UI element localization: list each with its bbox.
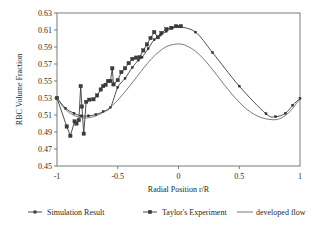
data-point-marker	[142, 49, 145, 52]
data-point-marker	[80, 115, 82, 117]
data-point-marker	[284, 112, 286, 114]
data-point-marker	[160, 31, 163, 34]
legend-label: developed flow	[256, 208, 306, 217]
x-tick-label: 1	[298, 172, 302, 181]
data-point-marker	[156, 36, 159, 39]
y-tick-label: 0.53	[38, 94, 52, 103]
data-point-marker	[292, 104, 294, 106]
data-point-marker	[99, 88, 102, 91]
data-point-marker	[69, 134, 72, 137]
data-point-marker	[75, 122, 78, 125]
y-tick-label: 0.51	[38, 111, 52, 120]
data-point-marker	[138, 56, 141, 59]
data-point-marker	[153, 39, 155, 41]
data-point-marker	[134, 56, 137, 59]
y-tick-label: 0.47	[38, 145, 52, 154]
series-developed-flow	[57, 44, 300, 120]
legend-swatch-marker	[148, 210, 151, 213]
rbc-volume-fraction-chart: 0.450.470.490.510.530.550.570.590.610.63…	[0, 0, 326, 231]
data-point-marker	[88, 115, 90, 117]
data-point-marker	[92, 98, 95, 101]
y-tick-label: 0.45	[38, 162, 52, 171]
y-tick-label: 0.49	[38, 128, 52, 137]
y-axis-title: RBC Volume Fraction	[15, 54, 24, 125]
legend-item-simulation-result[interactable]: Simulation Result	[28, 208, 105, 217]
data-point-marker	[131, 57, 134, 60]
data-point-marker	[153, 30, 156, 33]
x-axis-title: Radial Position r/R	[148, 185, 210, 194]
data-point-marker	[145, 43, 148, 46]
data-point-marker	[195, 31, 197, 33]
y-axis-tick-labels: 0.450.470.490.510.530.550.570.590.610.63	[38, 9, 52, 171]
series-simulation-result	[56, 26, 301, 118]
series-layer	[55, 24, 301, 137]
data-point-marker	[116, 78, 119, 81]
legend-item-taylor-s-experiment[interactable]: Taylor's Experiment	[143, 208, 227, 217]
chart-legend: Simulation ResultTaylor's Experimentdeve…	[28, 208, 306, 217]
data-point-marker	[88, 98, 91, 101]
data-point-marker	[127, 61, 130, 64]
data-point-marker	[123, 67, 126, 70]
y-tick-label: 0.61	[38, 26, 52, 35]
y-tick-label: 0.59	[38, 43, 52, 52]
data-point-marker	[131, 66, 133, 68]
data-point-marker	[212, 52, 214, 54]
data-point-marker	[124, 77, 126, 79]
data-point-marker	[238, 85, 240, 87]
data-point-marker	[95, 94, 98, 97]
y-tick-label: 0.55	[38, 77, 52, 86]
data-point-marker	[265, 113, 267, 115]
data-point-marker	[170, 26, 173, 29]
series-taylor-s-experiment	[55, 24, 182, 137]
data-point-marker	[275, 116, 277, 118]
data-point-marker	[79, 84, 82, 87]
plot-frame	[57, 13, 300, 166]
legend-label: Taylor's Experiment	[162, 208, 227, 217]
y-tick-label: 0.57	[38, 60, 52, 69]
chart-figure: 0.450.470.490.510.530.550.570.590.610.63…	[0, 0, 326, 231]
data-point-marker	[111, 67, 114, 70]
data-point-marker	[117, 86, 119, 88]
data-point-marker	[179, 24, 182, 27]
data-point-marker	[147, 48, 149, 50]
data-point-marker	[109, 79, 112, 82]
y-tick-label: 0.63	[38, 9, 52, 18]
x-axis-tick-labels: -1-0.500.51	[54, 172, 302, 181]
x-tick-label: -1	[54, 172, 61, 181]
legend-label: Simulation Result	[47, 208, 105, 217]
x-tick-label: 0	[177, 172, 181, 181]
legend-swatch-marker	[34, 211, 36, 213]
data-point-marker	[104, 83, 107, 86]
data-point-marker	[65, 125, 68, 128]
x-tick-label: 0.5	[234, 172, 244, 181]
data-point-marker	[73, 112, 75, 114]
data-point-marker	[80, 105, 83, 108]
x-tick-label: -0.5	[111, 172, 124, 181]
data-point-marker	[174, 24, 177, 27]
data-point-marker	[165, 27, 168, 30]
data-point-marker	[82, 132, 85, 135]
data-point-marker	[77, 118, 80, 121]
data-point-marker	[120, 70, 123, 73]
legend-item-developed-flow[interactable]: developed flow	[237, 208, 306, 217]
data-point-marker	[149, 36, 152, 39]
data-point-marker	[112, 83, 115, 86]
